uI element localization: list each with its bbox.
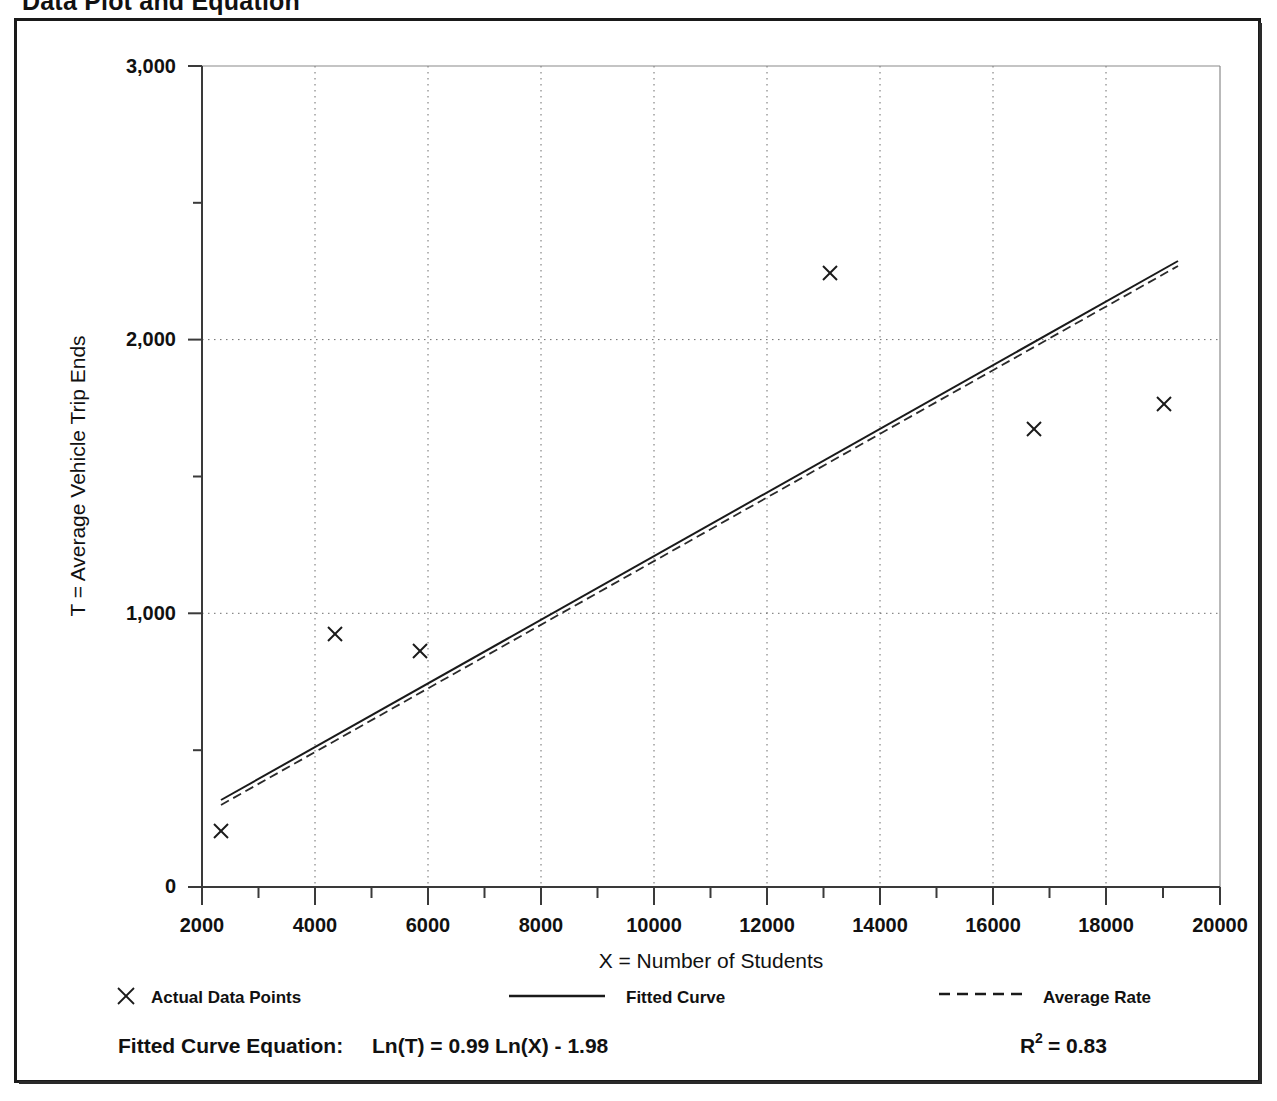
x-tick-label: 18000 (1078, 914, 1134, 936)
x-tick-label: 8000 (519, 914, 564, 936)
y-tick-label: 2,000 (126, 328, 176, 350)
legend-x-marker-icon (118, 988, 134, 1004)
x-tick-label: 6000 (406, 914, 451, 936)
x-tick-label: 12000 (739, 914, 795, 936)
plot-background (202, 66, 1220, 887)
page-title: Data Plot and Equation (22, 0, 300, 16)
legend-item-actual-data-points: Actual Data Points (118, 988, 301, 1007)
x-tick-label: 2000 (180, 914, 225, 936)
legend-label: Average Rate (1043, 988, 1151, 1007)
y-axis (188, 66, 202, 887)
legend-label: Fitted Curve (626, 988, 725, 1007)
y-tick-label: 0 (165, 875, 176, 897)
y-tick-label: 1,000 (126, 602, 176, 624)
r-squared-exponent: 2 (1035, 1030, 1043, 1046)
equation-expression: Ln(T) = 0.99 Ln(X) - 1.98 (372, 1034, 609, 1057)
r-squared-symbol: R (1020, 1034, 1035, 1057)
y-axis-tick-labels: 0 1,000 2,000 3,000 (126, 55, 176, 897)
x-axis (202, 887, 1220, 905)
legend-item-fitted-curve: Fitted Curve (509, 988, 725, 1007)
x-tick-label: 16000 (965, 914, 1021, 936)
data-plot-chart: 0 1,000 2,000 3,000 (17, 21, 1258, 1080)
r-squared-value: = 0.83 (1048, 1034, 1107, 1057)
chart-frame: 0 1,000 2,000 3,000 (14, 18, 1261, 1083)
y-tick-label: 3,000 (126, 55, 176, 77)
y-axis-title: T = Average Vehicle Trip Ends (66, 335, 89, 616)
legend-label: Actual Data Points (151, 988, 301, 1007)
plot-area (202, 66, 1220, 887)
equation-row: Fitted Curve Equation: Ln(T) = 0.99 Ln(X… (118, 1030, 1107, 1057)
equation-label: Fitted Curve Equation: (118, 1034, 343, 1057)
x-axis-tick-labels: 2000 4000 6000 8000 10000 12000 14000 16… (180, 914, 1248, 936)
x-axis-title: X = Number of Students (599, 949, 824, 972)
x-tick-label: 14000 (852, 914, 908, 936)
x-tick-label: 4000 (293, 914, 338, 936)
chart-legend: Actual Data Points Fitted Curve Average … (118, 988, 1151, 1007)
legend-item-average-rate: Average Rate (939, 988, 1151, 1007)
x-tick-label: 20000 (1192, 914, 1248, 936)
x-tick-label: 10000 (626, 914, 682, 936)
